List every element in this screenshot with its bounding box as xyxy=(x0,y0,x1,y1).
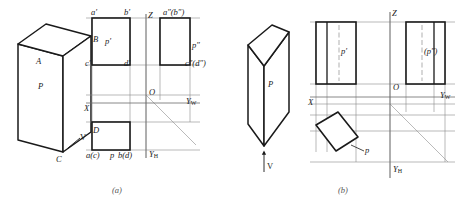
label-b-d-top: b(d) xyxy=(118,151,132,160)
label-b-p-double-prime: (p″) xyxy=(424,47,437,56)
label-a2-b2: a″(b″) xyxy=(163,8,184,17)
label-c-prime: c′ xyxy=(85,59,91,68)
caption-b: (b) xyxy=(338,186,348,195)
drawing-svg xyxy=(0,0,461,207)
axis-label-a-Yh: YH xyxy=(149,150,158,159)
label-b-prime: b′ xyxy=(124,8,130,17)
label-p-double-prime: p″ xyxy=(192,41,200,50)
axis-label-a-X: X xyxy=(84,104,89,113)
label-a-prime: a′ xyxy=(91,8,97,17)
axis-label-b-O: O xyxy=(393,83,399,92)
solid-a-direction-label-V: V xyxy=(80,133,86,142)
technical-drawing-canvas: A B C D P V a′ b′ c′ d′ p′ a″(b″) c″(d″)… xyxy=(0,0,461,207)
axis-label-b-Yw: YW xyxy=(440,91,450,100)
label-b-p-top: p xyxy=(365,146,369,155)
axis-label-b-X: X xyxy=(308,98,313,107)
top-view-b-leader xyxy=(351,145,364,151)
solid-a-face-label-P: P xyxy=(38,82,43,91)
label-p-prime: p′ xyxy=(105,37,111,46)
solid-b-face-label-P: P xyxy=(268,80,273,89)
solid-a-label-D: D xyxy=(93,126,99,135)
axis-label-a-Z: Z xyxy=(148,11,153,20)
label-p-top: p xyxy=(110,151,114,160)
front-view-b xyxy=(316,22,356,84)
label-b-p-prime: p′ xyxy=(341,47,347,56)
solid-a-label-A: A xyxy=(36,57,41,66)
label-a-c-top: a(c) xyxy=(86,151,100,160)
axis-label-b-Z: Z xyxy=(392,9,397,18)
label-d-prime: d′ xyxy=(124,59,130,68)
axis-label-a-O: O xyxy=(149,88,155,97)
solid-b-direction-label-V: V xyxy=(267,162,273,171)
solid-a-label-C: C xyxy=(56,155,62,164)
axis-label-a-Yw: YW xyxy=(186,97,196,106)
solid-a-label-B: B xyxy=(93,35,98,44)
axis-label-b-Yh: YH xyxy=(393,165,402,174)
caption-a: (a) xyxy=(112,186,122,195)
label-c2-d2: c″(d″) xyxy=(185,59,206,68)
